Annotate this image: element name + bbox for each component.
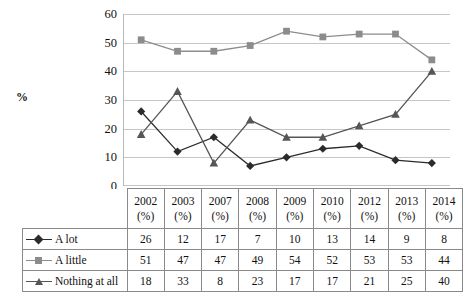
data-table: 2002(%)2003(%)2007(%)2008(%)2009(%)2010(… [22,188,463,292]
y-axis-tick-20: 20 [88,123,117,136]
data-point-marker [210,48,217,55]
chart-figure: % 0102030405060 2002(%)2003(%)2007(%)200… [0,0,464,293]
table-cell: 33 [164,271,201,292]
plot-area [123,14,450,186]
table-cell: 47 [202,250,239,271]
y-axis-tick-60: 60 [88,8,117,21]
legend-item-a-lot: A lot [23,229,128,250]
table-body: A lot261217710131498A little514747495452… [23,229,463,292]
legend-marker-square-icon [26,255,52,266]
series-a-little [138,28,435,63]
data-point-marker [283,28,290,35]
table-row: A lot261217710131498 [23,229,463,250]
column-header-2012: 2012(%) [351,189,388,229]
table-row: Nothing at all18338231717212540 [23,271,463,292]
table-cell: 8 [202,271,239,292]
table-cell: 17 [276,271,313,292]
column-header-2002: 2002(%) [127,189,164,229]
data-point-marker [428,67,437,75]
table-cell: 51 [127,250,164,271]
table-cell: 40 [425,271,462,292]
table-header-row: 2002(%)2003(%)2007(%)2008(%)2009(%)2010(… [23,189,463,229]
table-cell: 23 [239,271,276,292]
table-cell: 21 [351,271,388,292]
table-cell: 44 [425,250,462,271]
table-cell: 26 [127,229,164,250]
column-header-2010: 2010(%) [313,189,350,229]
y-axis-tick-50: 50 [88,37,117,50]
legend-item-a-little: A little [23,250,128,271]
table-cell: 53 [351,250,388,271]
data-point-marker [392,31,399,38]
table-cell: 17 [202,229,239,250]
y-axis-tick-40: 40 [88,65,117,78]
y-axis-tick-labels: 0102030405060 [88,0,117,200]
table-cell: 52 [313,250,350,271]
data-point-marker [428,159,436,167]
y-axis-tick-30: 30 [88,94,117,107]
data-point-marker [246,116,255,124]
data-point-marker [174,48,181,55]
column-header-2013: 2013(%) [388,189,425,229]
column-header-2014: 2014(%) [425,189,462,229]
column-header-2007: 2007(%) [202,189,239,229]
table-cell: 12 [164,229,201,250]
column-header-2008: 2008(%) [239,189,276,229]
data-point-marker [247,42,254,49]
legend-item-nothing-at-all: Nothing at all [23,271,128,292]
series-nothing-at-all [137,67,436,167]
table-header: 2002(%)2003(%)2007(%)2008(%)2009(%)2010(… [23,189,463,229]
table-cell: 25 [388,271,425,292]
data-point-marker [391,156,399,164]
table-cell: 54 [276,250,313,271]
data-point-marker [319,34,326,41]
data-point-marker [355,142,363,150]
table-cell: 7 [239,229,276,250]
data-point-marker [319,145,327,153]
legend-label: Nothing at all [55,275,118,287]
column-header-2009: 2009(%) [276,189,313,229]
data-point-marker [173,87,182,95]
table-cell: 13 [313,229,350,250]
table-cell: 10 [276,229,313,250]
table-cell: 47 [164,250,201,271]
table-row: A little514747495452535344 [23,250,463,271]
table-cell: 8 [425,229,462,250]
table-cell: 49 [239,250,276,271]
legend-marker-diamond-icon [26,234,52,245]
table-cell: 9 [388,229,425,250]
data-point-marker [428,56,435,63]
table-cell: 53 [388,250,425,271]
series-lines [123,14,450,186]
table-cell: 14 [351,229,388,250]
series-line [141,31,432,60]
data-point-marker [282,153,290,161]
table-corner-cell [23,189,128,229]
legend-label: A little [55,254,87,266]
column-header-2003: 2003(%) [164,189,201,229]
table-cell: 18 [127,271,164,292]
legend-marker-triangle-icon [26,276,52,287]
data-point-marker [356,31,363,38]
y-axis-label: % [8,90,36,105]
legend-label: A lot [55,233,78,245]
table-cell: 17 [313,271,350,292]
data-point-marker [138,36,145,43]
y-axis-tick-10: 10 [88,151,117,164]
